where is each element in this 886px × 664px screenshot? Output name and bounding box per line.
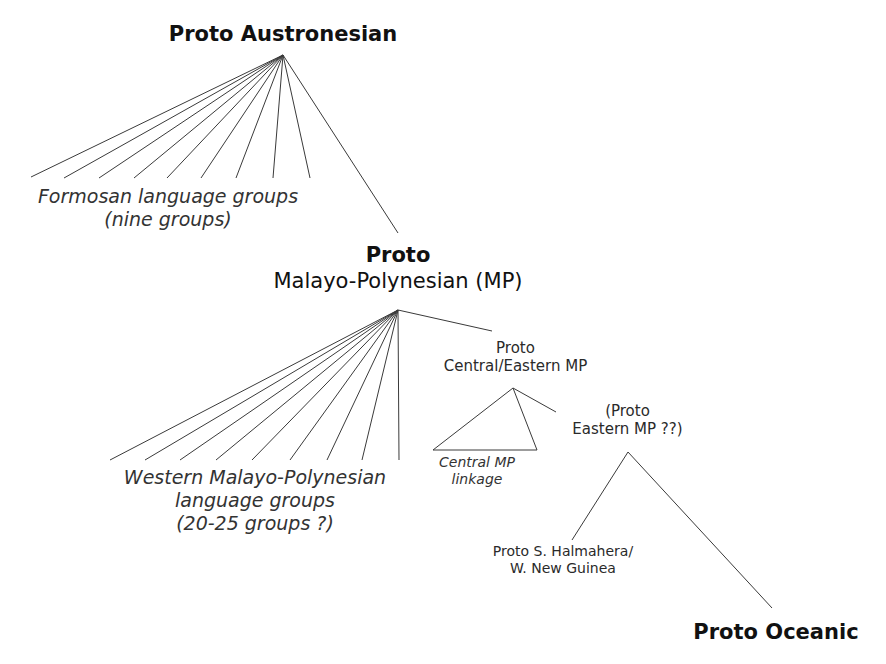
cmp-triangle [433,388,537,450]
node-label: Formosan language groups [18,185,318,208]
node-label: Proto S. Halmahera/ [468,543,658,560]
pemp-to-pshwng-edge [572,452,628,540]
node-label: Central/Eastern MP [443,357,588,375]
node-proto-austronesian: Proto Austronesian [163,22,403,48]
node-proto-s-halmahera-w-new-guinea: Proto S. Halmahera/ W. New Guinea [468,543,658,577]
pcemp-to-pemp-edge [513,388,556,412]
node-label: W. New Guinea [468,560,658,577]
node-proto-malayo-polynesian: Proto Malayo-Polynesian (MP) [228,243,568,294]
node-proto-oceanic: Proto Oceanic [676,620,876,646]
node-central-mp-linkage: Central MP linkage [422,454,532,488]
node-label: (20-25 groups ?) [100,512,410,535]
node-label: Proto [443,339,588,357]
node-label: (nine groups) [18,208,318,231]
node-label: Eastern MP ??) [555,420,700,438]
node-proto-eastern-mp: (Proto Eastern MP ??) [555,402,700,439]
wmp-branches [110,310,399,460]
node-label: Proto Oceanic [676,620,876,646]
node-label: Western Malayo-Polynesian [100,466,410,489]
node-label: language groups [100,489,410,512]
formosan-branches [31,55,310,178]
node-proto-central-eastern-mp: Proto Central/Eastern MP [443,339,588,376]
node-label: Malayo-Polynesian (MP) [228,269,568,295]
node-label: Proto [228,243,568,269]
pmp-to-pcemp-edge [398,310,492,331]
node-label: linkage [422,471,532,488]
node-label: Proto Austronesian [163,22,403,48]
node-formosan-groups: Formosan language groups (nine groups) [18,185,318,231]
pemp-to-poc-edge [628,452,772,608]
node-western-mp-groups: Western Malayo-Polynesian language group… [100,466,410,536]
node-label: Central MP [422,454,532,471]
tree-edges [0,0,886,664]
node-label: (Proto [555,402,700,420]
